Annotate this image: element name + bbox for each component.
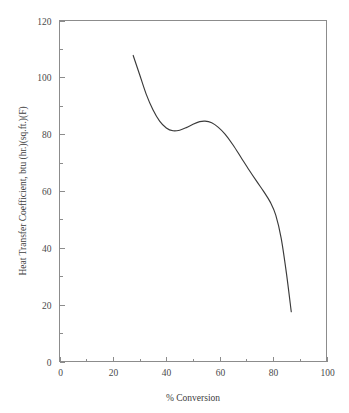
data-series-line: [133, 55, 291, 311]
y-axis-major-ticks: [60, 22, 65, 363]
y-axis-tick-labels: 020406080100120: [37, 17, 52, 368]
y-tick-label-40: 40: [42, 244, 52, 254]
x-tick-label-80: 80: [269, 368, 279, 378]
y-tick-label-20: 20: [42, 301, 52, 311]
x-tick-label-0: 0: [58, 368, 63, 378]
x-tick-label-100: 100: [320, 368, 335, 378]
x-tick-label-40: 40: [162, 368, 172, 378]
x-axis-title: % Conversion: [166, 393, 220, 403]
y-axis-title: Heat Transfer Coefficient, btu (hr.)(sq.…: [18, 106, 29, 275]
chart-canvas: 020406080100 020406080100120 % Conversio…: [0, 0, 349, 413]
x-tick-label-20: 20: [109, 368, 119, 378]
y-tick-label-0: 0: [47, 358, 52, 368]
plot-frame: [60, 21, 327, 362]
y-tick-label-60: 60: [42, 187, 52, 197]
y-tick-label-80: 80: [42, 130, 52, 140]
x-tick-label-60: 60: [216, 368, 226, 378]
x-axis-tick-labels: 020406080100: [58, 368, 335, 378]
y-tick-label-120: 120: [37, 17, 52, 27]
y-tick-label-100: 100: [37, 73, 52, 83]
chart-figure: 020406080100 020406080100120 % Conversio…: [0, 0, 349, 413]
